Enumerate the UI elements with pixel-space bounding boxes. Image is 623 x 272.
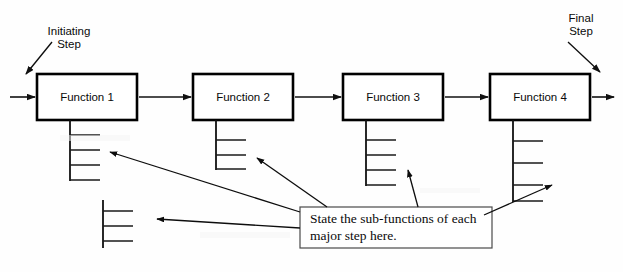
sub-function-comb-1 <box>70 120 100 181</box>
callout-pointer-to-comb-1 <box>110 152 300 212</box>
function-4-label: Function 4 <box>513 91 567 103</box>
callout-pointer-to-comb-2 <box>257 158 327 207</box>
sub-function-comb-3 <box>366 120 396 186</box>
function-box-group-3[interactable]: Function 3 <box>343 74 443 120</box>
initiating-step-label-line1: Initiating <box>48 25 91 37</box>
function-box-group-1[interactable]: Function 1 <box>37 74 137 120</box>
function-1-label: Function 1 <box>60 91 114 103</box>
callout-pointer-to-comb-4 <box>484 185 552 215</box>
sub-function-comb-4 <box>513 120 543 202</box>
function-3-label: Function 3 <box>366 91 420 103</box>
function-2-label: Function 2 <box>216 91 270 103</box>
callout-pointer-to-comb-3 <box>408 170 418 207</box>
sub-function-comb-extra <box>103 200 133 248</box>
functional-flow-block-diagram: Function 1 Function 2 Function 3 Functio… <box>0 0 623 272</box>
final-step-label-line1: Final <box>569 12 594 24</box>
function-box-group-2[interactable]: Function 2 <box>193 74 293 120</box>
diagram-canvas: Function 1 Function 2 Function 3 Functio… <box>0 0 623 272</box>
function-box-group-4[interactable]: Function 4 <box>490 74 590 120</box>
initiating-step-label-line2: Step <box>57 38 81 50</box>
final-step-pointer <box>568 42 600 72</box>
callout-text-line1: State the sub-functions of each <box>310 211 477 226</box>
initiating-step-pointer <box>26 42 52 74</box>
callout-pointer-to-comb-extra <box>157 219 300 228</box>
final-step-label-line2: Step <box>569 25 593 37</box>
sub-function-comb-2 <box>216 120 246 170</box>
callout-text-line2: major step here. <box>310 228 397 243</box>
